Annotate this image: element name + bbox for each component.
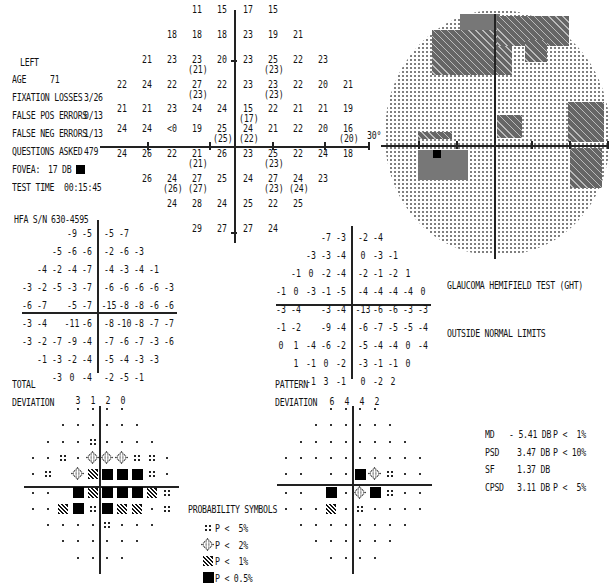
- sensitivity-value: 22: [293, 79, 303, 90]
- normal-dot-icon: [385, 504, 395, 514]
- sensitivity-value: 23: [243, 54, 253, 65]
- deviation-value: -4: [287, 305, 305, 315]
- sensitivity-value: 21: [142, 103, 152, 114]
- normal-dot-icon: [311, 437, 321, 447]
- sensitivity-cell: 24: [314, 149, 332, 159]
- horizontal-axis: [100, 146, 370, 148]
- normal-dot-icon: [147, 437, 157, 447]
- p1-symbol-icon: [147, 488, 157, 498]
- sensitivity-value: 22: [293, 123, 303, 134]
- normal-dot-icon: [43, 437, 53, 447]
- p1-symbol-icon: [88, 469, 98, 479]
- p1-symbol-icon: [117, 504, 127, 514]
- p2-symbol-icon: [353, 486, 366, 499]
- p2-legend-icon: [201, 538, 214, 551]
- normal-dot-icon: [415, 469, 425, 479]
- vertical-axis: [234, 10, 236, 243]
- sensitivity-value: 15: [268, 4, 278, 15]
- vertical-axis: [352, 406, 354, 574]
- sensitivity-cell: 28: [188, 199, 206, 209]
- sensitivity-retest-value: (25): [213, 134, 231, 144]
- sensitivity-cell: 22: [213, 80, 231, 90]
- ght-title: GLAUCOMA HEMIFIELD TEST (GHT): [447, 280, 583, 291]
- normal-dot-icon: [326, 404, 336, 414]
- sensitivity-cell: 18: [163, 30, 181, 40]
- p05-symbol-icon: [132, 487, 143, 498]
- normal-dot-icon: [355, 437, 365, 447]
- normal-dot-icon: [385, 536, 395, 546]
- normal-dot-icon: [162, 453, 172, 463]
- sensitivity-value: 22: [293, 148, 303, 159]
- deviation-value: -3: [160, 283, 178, 293]
- sensitivity-cell: 21: [289, 104, 307, 114]
- deviation-value: -7: [33, 301, 51, 311]
- sensitivity-cell: 23: [314, 55, 332, 65]
- normal-dot-icon: [58, 437, 68, 447]
- sensitivity-cell: 21: [314, 104, 332, 114]
- sensitivity-cell: 22: [163, 149, 181, 159]
- p5-symbol-icon: [148, 454, 156, 462]
- sensitivity-retest-value: (20): [339, 134, 357, 144]
- normal-dot-icon: [281, 469, 291, 479]
- sensitivity-cell: 18: [188, 30, 206, 40]
- sensitivity-cell: 23: [239, 80, 257, 90]
- deviation-value: -4: [332, 323, 350, 333]
- deviation-value: -6: [160, 301, 178, 311]
- sensitivity-value: 21: [293, 29, 303, 40]
- normal-dot-icon: [355, 420, 365, 430]
- sensitivity-cell: 24: [113, 149, 131, 159]
- sensitivity-value: 24: [268, 223, 278, 234]
- deviation-value: -4: [78, 337, 96, 347]
- p05-legend-icon: [203, 572, 214, 583]
- p5-symbol-icon: [59, 454, 67, 462]
- normal-dot-icon: [147, 504, 157, 514]
- normal-dot-icon: [28, 469, 38, 479]
- normal-dot-icon: [385, 437, 395, 447]
- deviation-value: 0: [414, 287, 432, 297]
- p05-symbol-icon: [73, 487, 84, 498]
- sensitivity-cell: 24(22): [239, 124, 257, 144]
- horizontal-axis: [277, 484, 432, 486]
- normal-dot-icon: [326, 437, 336, 447]
- index-name: SF: [485, 464, 494, 475]
- sensitivity-cell: 21: [138, 55, 156, 65]
- sensitivity-value: 18: [167, 29, 177, 40]
- deviation-value: -6: [78, 247, 96, 257]
- normal-dot-icon: [117, 553, 127, 563]
- index-name: CPSD: [485, 482, 504, 493]
- p2-symbol-icon: [115, 451, 128, 464]
- normal-dot-icon: [117, 520, 127, 530]
- normal-dot-icon: [311, 536, 321, 546]
- legend-label: P < 1%: [215, 556, 248, 567]
- sensitivity-value: 24: [167, 198, 177, 209]
- p5-symbol-icon: [103, 521, 111, 529]
- sensitivity-cell: 23: [239, 149, 257, 159]
- sensitivity-cell: 22: [289, 55, 307, 65]
- normal-dot-icon: [28, 488, 38, 498]
- normal-dot-icon: [296, 453, 306, 463]
- sensitivity-cell: 25(23): [264, 149, 282, 169]
- sensitivity-cell: 23: [163, 104, 181, 114]
- normal-dot-icon: [341, 553, 351, 563]
- sensitivity-cell: 19: [188, 124, 206, 134]
- normal-dot-icon: [132, 437, 142, 447]
- normal-dot-icon: [311, 504, 321, 514]
- greyscale-region: [418, 132, 452, 139]
- sensitivity-value: 24: [217, 103, 227, 114]
- sensitivity-cell: 24(26): [163, 174, 181, 194]
- sensitivity-cell: 26: [213, 149, 231, 159]
- deviation-value: -6: [78, 319, 96, 329]
- normal-dot-icon: [88, 520, 98, 530]
- normal-dot-icon: [385, 420, 395, 430]
- p5-symbol-icon: [386, 470, 394, 478]
- normal-dot-icon: [102, 420, 112, 430]
- sensitivity-value: 21: [142, 54, 152, 65]
- normal-dot-icon: [73, 536, 83, 546]
- normal-dot-icon: [73, 420, 83, 430]
- sensitivity-cell: 25: [289, 199, 307, 209]
- sensitivity-value: <0: [167, 123, 177, 134]
- axis-tick: [569, 141, 571, 149]
- sensitivity-value: 22: [117, 79, 127, 90]
- normal-dot-icon: [117, 404, 127, 414]
- sensitivity-cell: 23(21): [188, 55, 206, 75]
